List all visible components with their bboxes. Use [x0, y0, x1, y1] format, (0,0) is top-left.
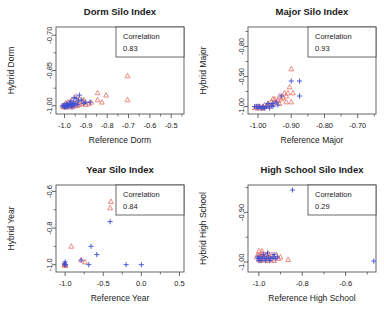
y-tick-label: -0.80	[237, 38, 246, 55]
x-tick-label: 0.0	[136, 279, 146, 288]
y-tick-label: -1.00	[237, 254, 246, 271]
marker-triangle	[69, 244, 74, 248]
marker-triangle	[108, 199, 113, 203]
panel-high-school-silo-index: High School Silo Index-1.0-0.8-0.6-1.00-…	[192, 158, 384, 316]
y-tick-label: -0.90	[237, 68, 246, 85]
marker-plus	[94, 252, 99, 257]
panel-major-silo-index: Major Silo Index-1.00-0.90-0.80-0.70-1.0…	[192, 0, 384, 158]
x-axis-label: Reference Dorm	[89, 135, 151, 145]
y-tick-label: -0.85	[45, 62, 54, 79]
marker-triangle	[287, 84, 292, 88]
x-tick-label: -0.9	[79, 121, 92, 130]
marker-plus	[107, 219, 112, 224]
x-axis-label: Reference Year	[91, 293, 150, 303]
x-tick-label: -0.90	[283, 121, 300, 130]
y-tick-label: -0.6	[45, 185, 54, 198]
x-tick-label: -1.0	[252, 279, 265, 288]
x-tick-label: -0.6	[143, 121, 156, 130]
marker-plus	[290, 187, 295, 192]
panel-title: Year Silo Index	[86, 164, 154, 175]
marker-triangle	[125, 97, 130, 101]
x-tick-label: -0.7	[122, 121, 135, 130]
y-axis-label: Hybrid High School	[198, 192, 208, 265]
panel-year-silo-index: Year Silo Index-1.0-0.50.00.5-1.0-0.8-0.…	[0, 158, 192, 316]
x-tick-label: -1.0	[58, 121, 71, 130]
y-tick-label: -1.00	[237, 98, 246, 115]
correlation-value: 0.83	[123, 44, 138, 53]
y-tick-label: -0.8	[45, 222, 54, 235]
x-tick-label: -0.70	[349, 121, 366, 130]
marker-triangle	[125, 73, 130, 77]
correlation-label: Correlation	[123, 190, 160, 199]
marker-triangle	[99, 100, 104, 104]
x-tick-label: -1.0	[59, 279, 72, 288]
x-tick-label: -0.5	[165, 121, 178, 130]
y-axis-label: Hybrid Year	[6, 206, 16, 250]
y-axis-label: Hybrid Major	[198, 46, 208, 94]
correlation-value: 0.29	[315, 202, 330, 211]
y-tick-label: -0.90	[237, 204, 246, 221]
marker-plus	[123, 262, 128, 267]
y-axis-label: Hybrid Dorm	[6, 47, 16, 95]
x-tick-label: -1.00	[249, 121, 266, 130]
marker-triangle	[104, 93, 109, 97]
correlation-label: Correlation	[123, 32, 160, 41]
correlation-value: 0.84	[123, 202, 138, 211]
y-tick-label: -0.70	[45, 27, 54, 44]
x-axis-label: Reference Major	[281, 135, 344, 145]
correlation-value: 0.93	[315, 44, 330, 53]
marker-triangle	[256, 249, 261, 253]
marker-plus	[297, 78, 302, 83]
marker-plus	[139, 262, 144, 267]
scatter-plot-matrix: Dorm Silo Index-1.0-0.9-0.8-0.7-0.6-0.5-…	[0, 0, 384, 317]
marker-triangle	[108, 205, 113, 209]
x-axis-label: Reference High School	[268, 293, 356, 303]
panel-title: Dorm Silo Index	[84, 6, 157, 17]
x-tick-label: -0.8	[101, 121, 114, 130]
y-tick-label: -1.0	[45, 258, 54, 271]
panel-title: Major Silo Index	[276, 6, 350, 17]
marker-triangle	[286, 257, 291, 261]
marker-triangle	[95, 90, 100, 94]
x-tick-label: 0.5	[174, 279, 184, 288]
x-tick-label: -0.5	[97, 279, 110, 288]
x-tick-label: -0.8	[296, 279, 309, 288]
correlation-label: Correlation	[315, 32, 352, 41]
marker-plus	[289, 78, 294, 83]
x-tick-label: -0.80	[316, 121, 333, 130]
marker-triangle	[289, 66, 294, 70]
correlation-label: Correlation	[315, 190, 352, 199]
y-tick-label: -1.00	[45, 97, 54, 114]
marker-triangle	[289, 99, 294, 103]
marker-plus	[88, 244, 93, 249]
x-tick-label: -0.6	[339, 279, 352, 288]
marker-triangle	[95, 97, 100, 101]
panel-title: High School Silo Index	[261, 164, 365, 175]
marker-plus	[297, 93, 302, 98]
marker-triangle	[284, 99, 289, 103]
panel-dorm-silo-index: Dorm Silo Index-1.0-0.9-0.8-0.7-0.6-0.5-…	[0, 0, 192, 158]
marker-triangle	[290, 90, 295, 94]
